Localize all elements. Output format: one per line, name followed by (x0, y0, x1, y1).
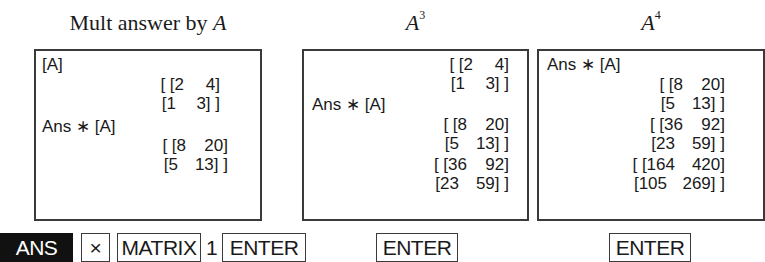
matrix-cell: 13] ] (178, 155, 228, 174)
matrix-cell: 20] (467, 115, 509, 134)
entry-line: Ans ∗ [A] (547, 55, 621, 74)
entry-line: [A] (42, 55, 63, 74)
caption-exponent: 3 (419, 8, 425, 22)
entry-line: Ans ∗ [A] (42, 117, 116, 136)
matrix-cell: 92] (683, 115, 725, 134)
caption-variable: A (641, 10, 654, 35)
entry-line: Ans ∗ [A] (312, 95, 386, 114)
matrix-result: [ [820] [513] ] (659, 75, 725, 113)
matrix-cell: [1 (451, 74, 465, 93)
matrix-cell: [ [36 (650, 115, 683, 134)
matrix-cell: 59] ] (675, 134, 725, 153)
enter-key[interactable]: ENTER (222, 233, 306, 262)
matrix-cell: [5 (661, 94, 675, 113)
matrix-result: [ [164420] [105269] ] (632, 155, 725, 193)
calculator-screen-3: Ans ∗ [A] [ [820] [513] ] [ [3692] [2359… (537, 49, 765, 221)
multiply-key[interactable]: × (81, 233, 110, 262)
matrix-cell: [ [8 (443, 115, 467, 134)
enter-key[interactable]: ENTER (609, 233, 691, 262)
matrix-cell: [23 (435, 174, 459, 193)
ans-key[interactable]: ANS (0, 233, 73, 262)
caption-a-fourth: A4 (537, 10, 765, 36)
matrix-cell: [5 (164, 155, 178, 174)
matrix-cell: [ [8 (162, 136, 186, 155)
matrix-cell: [ [2 (160, 75, 184, 94)
matrix-cell: 420] (675, 155, 725, 174)
matrix-key[interactable]: MATRIX (117, 233, 201, 262)
enter-key[interactable]: ENTER (376, 233, 458, 262)
caption-mult-answer: Mult answer by A (34, 10, 262, 36)
matrix-cell: 13] ] (459, 134, 509, 153)
matrix-result: [ [3692] [2359] ] (434, 155, 509, 193)
calculator-screen-1: [A] [ [24] [13] ] Ans ∗ [A] [ [820] [513… (34, 49, 262, 221)
caption-text: Mult answer by (69, 10, 213, 35)
matrix-cell: 4] (473, 55, 509, 74)
matrix-cell: [ [164 (632, 155, 675, 174)
matrix-cell: [ [36 (434, 155, 467, 174)
matrix-result: [ [24] [13] ] (160, 75, 220, 113)
matrix-cell: 3] ] (176, 94, 220, 113)
calculator-screen-2: [ [24] [13] ] Ans ∗ [A] [ [820] [513] ] … (302, 49, 529, 221)
matrix-cell: 20] (683, 75, 725, 94)
caption-a-cubed: A3 (302, 10, 529, 36)
matrix-result: [ [24] [13] ] (449, 55, 509, 93)
caption-variable: A (406, 10, 419, 35)
caption-variable: A (213, 10, 226, 35)
matrix-cell: 59] ] (459, 174, 509, 193)
matrix-cell: 3] ] (465, 74, 509, 93)
caption-exponent: 4 (655, 8, 661, 22)
matrix-cell: 92] (467, 155, 509, 174)
matrix-result: [ [820] [513] ] (162, 136, 228, 174)
matrix-cell: [5 (445, 134, 459, 153)
matrix-result: [ [3692] [2359] ] (650, 115, 725, 153)
matrix-cell: [ [8 (659, 75, 683, 94)
matrix-cell: [23 (651, 134, 675, 153)
matrix-cell: 20] (186, 136, 228, 155)
matrix-result: [ [820] [513] ] (443, 115, 509, 153)
digit-one-key[interactable]: 1 (206, 233, 218, 262)
matrix-cell: [1 (162, 94, 176, 113)
matrix-cell: 269] ] (667, 174, 725, 193)
matrix-cell: [105 (634, 174, 667, 193)
matrix-cell: 4] (184, 75, 220, 94)
matrix-cell: [ [2 (449, 55, 473, 74)
matrix-cell: 13] ] (675, 94, 725, 113)
